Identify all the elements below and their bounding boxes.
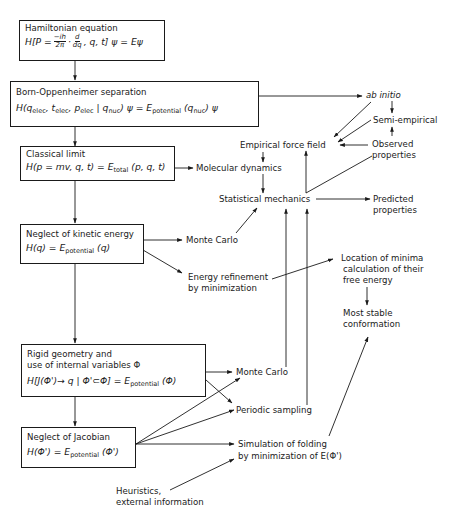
predicted-properties-label-2: properties [373,205,417,216]
statistical-mechanics-label: Statistical mechanics [219,194,310,205]
rigid-geometry-title-1: Rigid geometry and [27,349,200,360]
kinetic-energy-equation: H(q) = Epotential (q) [26,241,138,258]
kinetic-energy-box: Neglect of kinetic energy H(q) = Epotent… [20,224,144,264]
location-minima-label-3: free energy [343,275,393,286]
heuristics-label-2: external information [116,497,204,508]
monte-carlo-label-1: Monte Carlo [186,235,238,246]
energy-refinement-label-1: Energy refinement [188,272,268,283]
location-minima-label-1: Location of minima [341,253,423,264]
molecular-dynamics-label: Molecular dynamics [196,163,282,174]
kinetic-energy-title: Neglect of kinetic energy [26,229,138,240]
simulation-folding-label-1: Simulation of folding [238,439,327,450]
jacobian-title: Neglect of Jacobian [27,432,130,443]
periodic-sampling-label: Periodic sampling [236,405,312,416]
hamiltonian-box: Hamiltonian equation H[P = −ih 2π · d dq… [19,20,165,61]
rigid-geometry-box: Rigid geometry and use of internal varia… [21,344,206,397]
jacobian-box: Neglect of Jacobian H(Φ') = Epotential (… [21,427,136,468]
empirical-force-field-label: Empirical force field [240,140,326,151]
most-stable-label-2: conformation [343,319,400,330]
observed-properties-label-1: Observed [372,139,413,150]
born-oppenheimer-box: Born-Oppenheimer separation H(qelec, tel… [10,81,259,127]
born-oppenheimer-equation: H(qelec, telec, pelec | qnuc) ψ = Epoten… [16,101,253,118]
hamiltonian-equation: H[P = −ih 2π · d dq , q, t] ψ = Eψ [25,34,159,49]
flowchart-canvas: Hamiltonian equation H[P = −ih 2π · d dq… [0,0,459,521]
hamiltonian-title: Hamiltonian equation [25,23,159,34]
most-stable-label-1: Most stable [343,308,393,319]
classical-limit-title: Classical limit [26,149,169,160]
location-minima-label-2: calculation of their [343,264,423,275]
monte-carlo-label-2: Monte Carlo [236,367,288,378]
observed-properties-label-2: properties [372,150,416,161]
simulation-folding-label-2: by minimization of E(Φ') [238,451,342,462]
predicted-properties-label-1: Predicted [373,194,413,205]
rigid-geometry-equation: H[J(Φ')→ q | Φ'⊂Φ] = Epotential (Φ) [27,374,200,391]
born-oppenheimer-title: Born-Oppenheimer separation [16,87,253,98]
semi-empirical-label: Semi-empirical [373,115,437,126]
energy-refinement-label-2: by minimization [188,283,257,294]
classical-limit-box: Classical limit H(p = mv, q, t) = Etotal… [20,146,175,181]
rigid-geometry-title-2: use of internal variables Φ [27,360,200,371]
jacobian-equation: H(Φ') = Epotential (Φ') [27,445,130,462]
classical-limit-equation: H(p = mv, q, t) = Etotal (p, q, t) [26,160,169,177]
heuristics-label-1: Heuristics, [116,486,161,497]
ab-initio-label: ab initio [366,90,401,101]
